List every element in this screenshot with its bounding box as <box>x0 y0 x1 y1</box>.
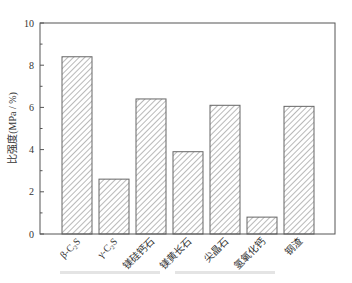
x-category-label: 镁黄长石 <box>157 235 194 272</box>
x-category-label: 尖晶石 <box>201 235 231 265</box>
figure-caption-2 <box>175 271 275 274</box>
bar <box>136 99 166 234</box>
x-category-label: 钢渣 <box>282 235 305 258</box>
y-tick-label: 6 <box>29 102 34 113</box>
y-tick-label: 4 <box>29 144 34 155</box>
x-category-label: 氢氧化钙 <box>231 235 268 272</box>
x-category-label: β-C₂S <box>58 236 83 261</box>
y-tick-label: 0 <box>29 229 34 240</box>
bar-chart: 0246810 β-C₂Sγ-C₂S镁硅钙石镁黄长石尖晶石氢氧化钙钢渣 比强度(… <box>0 0 352 283</box>
bar <box>210 105 240 234</box>
x-category-label: 镁硅钙石 <box>120 235 157 272</box>
bar <box>173 152 203 234</box>
bar <box>247 217 277 234</box>
x-category-label: γ-C₂S <box>94 236 119 261</box>
x-axis-labels: β-C₂Sγ-C₂S镁硅钙石镁黄长石尖晶石氢氧化钙钢渣 <box>58 235 305 272</box>
y-tick-label: 2 <box>29 186 34 197</box>
bars-group <box>62 57 314 234</box>
y-axis: 0246810 <box>24 18 44 240</box>
y-tick-label: 10 <box>24 18 34 29</box>
y-axis-label: 比强度(MPa / %) <box>6 92 19 164</box>
bar <box>62 57 92 234</box>
y-tick-label: 8 <box>29 60 34 71</box>
figure-caption <box>60 271 160 274</box>
bar <box>99 179 129 234</box>
bar <box>284 106 314 234</box>
